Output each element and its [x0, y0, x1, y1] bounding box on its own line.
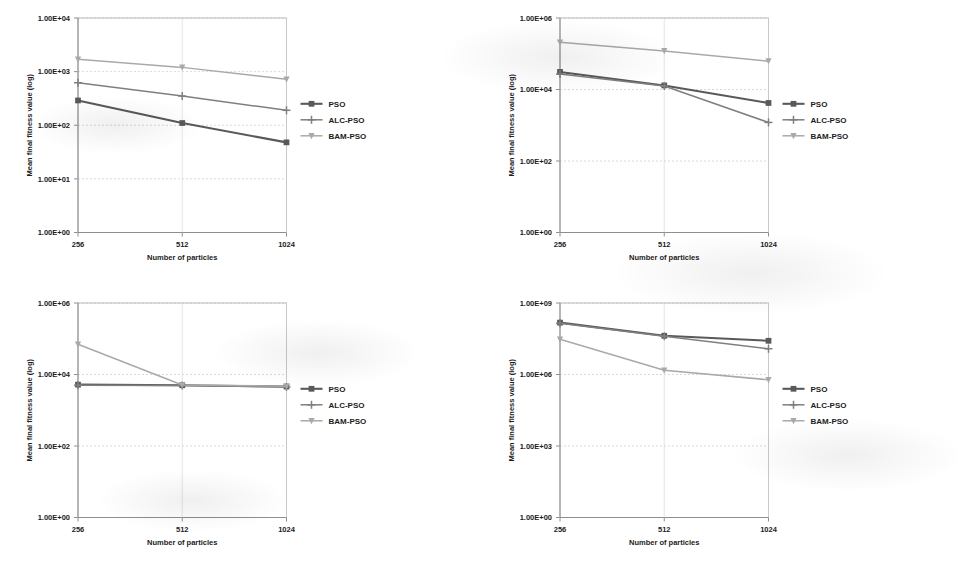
x-axis-tick-label: 256 — [553, 524, 566, 533]
y-axis-tick-label: 1.00E+04 — [38, 14, 71, 23]
figure-panel-grid: 1.00E+001.00E+011.00E+021.00E+031.00E+04… — [0, 0, 963, 569]
legend-marker-icon — [790, 101, 796, 107]
y-axis-tick-label: 1.00E+00 — [38, 228, 70, 237]
x-axis-tick-label: 256 — [72, 240, 85, 249]
x-axis-tick-label: 1024 — [278, 240, 296, 249]
legend-label: PSO — [329, 100, 346, 109]
legend-item-alc-pso[interactable]: ALC-PSO — [301, 116, 365, 125]
x-axis-title: Number of particles — [147, 253, 217, 262]
data-point-marker — [178, 92, 186, 100]
chart-canvas-top-left: 1.00E+001.00E+011.00E+021.00E+031.00E+04… — [0, 0, 482, 285]
legend-marker-icon — [789, 400, 797, 408]
legend-marker-icon — [308, 116, 316, 124]
legend-item-pso[interactable]: PSO — [782, 100, 827, 109]
legend-marker-icon — [790, 385, 796, 391]
legend-marker-icon — [308, 400, 316, 408]
x-axis-title: Number of particles — [147, 537, 217, 546]
y-axis-tick-label: 1.00E+02 — [38, 121, 70, 130]
chart-canvas-bottom-left: 1.00E+001.00E+021.00E+041.00E+0625651210… — [0, 285, 482, 569]
data-point-marker — [179, 120, 185, 126]
data-point-marker — [764, 118, 772, 126]
y-axis-tick-label: 1.00E+02 — [519, 157, 551, 166]
chart-panel-bottom-right: 1.00E+001.00E+031.00E+061.00E+0925651210… — [482, 285, 963, 569]
data-point-marker — [765, 337, 771, 343]
legend-label: BAM-PSO — [810, 132, 848, 141]
chart-canvas-top-right: 1.00E+001.00E+021.00E+041.00E+0625651210… — [482, 0, 963, 285]
y-axis-tick-label: 1.00E+01 — [38, 175, 70, 184]
data-point-marker — [74, 79, 82, 87]
legend-item-pso[interactable]: PSO — [301, 384, 346, 393]
x-axis-tick-label: 512 — [657, 240, 670, 249]
chart-panel-top-right: 1.00E+001.00E+021.00E+041.00E+0625651210… — [482, 0, 963, 285]
legend-label: PSO — [810, 100, 827, 109]
y-axis-tick-label: 1.00E+00 — [519, 228, 551, 237]
y-axis-tick-label: 1.00E+02 — [38, 441, 70, 450]
x-axis-tick-label: 512 — [657, 524, 670, 533]
x-axis-tick-label: 1024 — [760, 240, 778, 249]
legend-label: PSO — [329, 384, 346, 393]
chart-panel-top-left: 1.00E+001.00E+011.00E+021.00E+031.00E+04… — [0, 0, 482, 285]
x-axis-tick-label: 1024 — [760, 524, 778, 533]
y-axis-tick-label: 1.00E+06 — [519, 370, 551, 379]
legend-marker-icon — [309, 101, 315, 107]
x-axis-title: Number of particles — [629, 253, 699, 262]
x-axis-title: Number of particles — [629, 537, 699, 546]
y-axis-title: Mean final fitness value (log) — [507, 358, 516, 461]
legend-label: PSO — [810, 384, 827, 393]
data-point-marker — [765, 100, 771, 106]
y-axis-title: Mean final fitness value (log) — [507, 73, 516, 176]
legend-item-bam-pso[interactable]: BAM-PSO — [782, 132, 848, 141]
data-point-marker — [283, 106, 291, 114]
legend-label: ALC-PSO — [810, 116, 846, 125]
y-axis-tick-label: 1.00E+06 — [38, 298, 70, 307]
y-axis-tick-label: 1.00E+03 — [38, 67, 70, 76]
chart-canvas-bottom-right: 1.00E+001.00E+031.00E+061.00E+0925651210… — [482, 285, 963, 569]
chart-panel-bottom-left: 1.00E+001.00E+021.00E+041.00E+0625651210… — [0, 285, 482, 569]
legend-item-alc-pso[interactable]: ALC-PSO — [782, 116, 846, 125]
data-point-marker — [764, 344, 772, 352]
legend-label: BAM-PSO — [329, 416, 367, 425]
legend-marker-icon — [309, 385, 315, 391]
x-axis-tick-label: 256 — [553, 240, 566, 249]
legend-item-bam-pso[interactable]: BAM-PSO — [301, 132, 367, 141]
data-point-marker — [284, 139, 290, 145]
y-axis-tick-label: 1.00E+04 — [519, 85, 552, 94]
legend-item-alc-pso[interactable]: ALC-PSO — [301, 400, 365, 409]
legend-item-pso[interactable]: PSO — [782, 384, 827, 393]
x-axis-tick-label: 256 — [72, 524, 85, 533]
y-axis-tick-label: 1.00E+04 — [38, 370, 71, 379]
legend-label: ALC-PSO — [329, 400, 365, 409]
legend-label: BAM-PSO — [810, 416, 848, 425]
y-axis-tick-label: 1.00E+03 — [519, 441, 551, 450]
y-axis-tick-label: 1.00E+09 — [519, 298, 551, 307]
legend-marker-icon — [789, 116, 797, 124]
data-point-marker — [75, 98, 81, 104]
y-axis-tick-label: 1.00E+00 — [519, 513, 551, 522]
legend-label: BAM-PSO — [329, 132, 367, 141]
x-axis-tick-label: 512 — [176, 240, 189, 249]
y-axis-tick-label: 1.00E+00 — [38, 513, 70, 522]
x-axis-tick-label: 512 — [176, 524, 189, 533]
y-axis-title: Mean final fitness value (log) — [25, 73, 34, 176]
legend-item-bam-pso[interactable]: BAM-PSO — [782, 416, 848, 425]
y-axis-title: Mean final fitness value (log) — [25, 358, 34, 461]
legend-label: ALC-PSO — [810, 400, 846, 409]
legend-item-alc-pso[interactable]: ALC-PSO — [782, 400, 846, 409]
legend-item-bam-pso[interactable]: BAM-PSO — [301, 416, 367, 425]
legend-label: ALC-PSO — [329, 116, 365, 125]
y-axis-tick-label: 1.00E+06 — [519, 14, 551, 23]
x-axis-tick-label: 1024 — [278, 524, 296, 533]
legend-item-pso[interactable]: PSO — [301, 100, 346, 109]
